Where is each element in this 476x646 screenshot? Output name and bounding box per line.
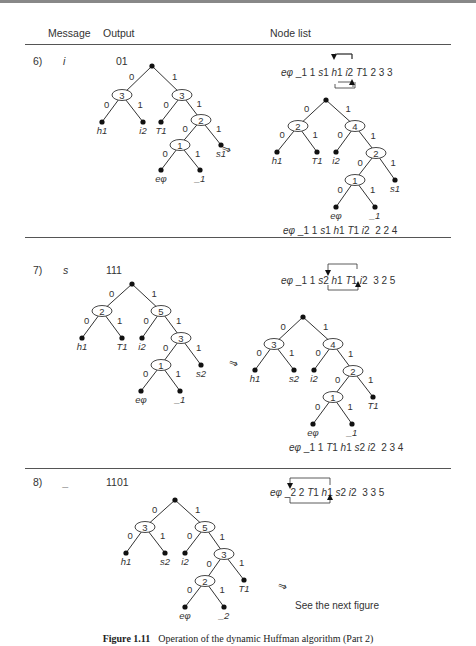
node-weight: 1	[158, 360, 163, 371]
leaf-label: T1	[311, 155, 322, 166]
leaf-label: _1	[369, 210, 381, 221]
edge-label: 1	[138, 99, 143, 110]
edge-label: 1	[220, 584, 225, 595]
node-weight: 2	[295, 121, 300, 132]
node-weight: 2	[350, 366, 355, 377]
leaf-node	[274, 149, 279, 154]
root-node	[129, 281, 134, 286]
leaf-label: i2	[332, 155, 340, 166]
leaf-label: h1	[77, 341, 88, 352]
edge-label: 1	[371, 130, 376, 141]
tree-after-step-6: 01010101012421h1T1i2s1eφ_1	[272, 97, 400, 221]
leaf-node	[349, 421, 354, 426]
transform-arrow-icon: ⇒	[277, 578, 290, 592]
leaf-node	[310, 421, 315, 426]
edge-label: 1	[346, 103, 351, 114]
arrow-up-icon	[355, 281, 361, 287]
edge-label: 1	[289, 347, 294, 358]
tree-before-step-6: 01010101013321h1i2T1s1eφ_1	[97, 63, 226, 184]
leaf-label: _2	[218, 610, 230, 621]
leaf-node	[198, 362, 203, 367]
node-weight: 3	[142, 522, 147, 533]
leaf-label: eφ	[330, 210, 341, 221]
leaf-node	[140, 119, 145, 124]
leaf-node	[158, 119, 163, 124]
leaf-label: i2	[310, 373, 318, 384]
edge-label: 1	[220, 531, 225, 542]
leaf-node	[79, 335, 84, 340]
leaf-node	[221, 604, 226, 609]
leaf-node	[119, 335, 124, 340]
node-weight: 1	[330, 392, 335, 403]
tree-before-step-7: 01010101012531h1T1i2s2eφ_1	[77, 281, 207, 405]
edge-label: 1	[348, 348, 353, 359]
node-weight: 2	[99, 306, 104, 317]
node-weight: 5	[158, 306, 163, 317]
node-weight: 3	[119, 90, 124, 101]
swap-arrows-step-8	[287, 483, 333, 500]
leaf-node	[252, 367, 257, 372]
edge-label: 0	[183, 123, 188, 134]
node-weight: 2	[202, 576, 207, 587]
node-weight: 3	[271, 339, 276, 350]
leaf-label: i2	[181, 556, 189, 567]
leaf-node	[197, 167, 202, 172]
edge-label: 0	[187, 584, 192, 595]
tree-before-step-8: 01010101013532h1s2i2T1eφ_2	[121, 497, 250, 621]
edge-label: 1	[348, 401, 353, 412]
edge-label: 0	[257, 347, 262, 358]
edge-label: 1	[196, 342, 201, 353]
leaf-label: s2	[196, 368, 207, 379]
leaf-label: _1	[346, 427, 358, 438]
edge-label: 0	[84, 315, 89, 326]
edge-label: 1	[370, 184, 375, 195]
edge-label: 0	[315, 401, 320, 412]
leaf-node	[372, 204, 377, 209]
leaf-label: eφ	[155, 173, 166, 184]
edge-label: 1	[313, 129, 318, 140]
node-weight: 2	[198, 115, 203, 126]
arrow-down-icon	[325, 270, 331, 276]
root-node	[323, 97, 328, 102]
leaf-node	[138, 388, 143, 393]
leaf-node	[333, 149, 338, 154]
leaf-node	[370, 394, 375, 399]
leaf-label: h1	[272, 155, 283, 166]
edge-label: 0	[280, 129, 285, 140]
node-weight: 2	[373, 148, 378, 159]
edge-label: 1	[216, 123, 221, 134]
edge-label: 1	[323, 321, 328, 332]
leaf-node	[291, 367, 296, 372]
arrow-down-icon	[331, 54, 337, 60]
node-weight: 1	[177, 140, 182, 151]
swap-bracket-step-8	[290, 478, 330, 503]
edge-label: 1	[368, 374, 373, 385]
edge-label: 1	[391, 157, 396, 168]
leaf-node	[333, 204, 338, 209]
leaf-node	[182, 604, 187, 609]
edge-label: 1	[195, 504, 200, 515]
edge-label: 1	[160, 530, 165, 541]
edge-label: 0	[163, 342, 168, 353]
leaf-node	[123, 550, 128, 555]
node-weight: 4	[330, 339, 335, 350]
leaf-label: i2	[138, 341, 146, 352]
leaf-label: i2	[139, 125, 147, 136]
edge-label: 0	[164, 99, 169, 110]
edge-label: 0	[335, 374, 340, 385]
leaf-label: s1	[390, 183, 400, 194]
leaf-node	[158, 167, 163, 172]
edge-label: 0	[338, 129, 343, 140]
edge-label: 0	[316, 347, 321, 358]
leaf-label: s2	[289, 373, 300, 384]
leaf-label: eφ	[135, 394, 146, 405]
edge-label: 0	[187, 530, 192, 541]
leaf-label: eφ	[307, 427, 318, 438]
node-weight: 5	[202, 522, 207, 533]
leaf-node	[314, 149, 319, 154]
leaf-node	[139, 335, 144, 340]
swap-arrows-step-7	[325, 270, 361, 287]
leaf-node	[177, 388, 182, 393]
leaf-label: T1	[116, 341, 127, 352]
edge-label: 0	[281, 321, 286, 332]
